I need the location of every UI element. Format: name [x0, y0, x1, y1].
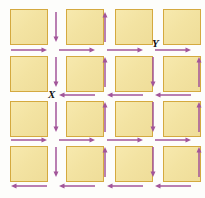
arrow-up-icon [194, 102, 204, 132]
arrow-down-icon [148, 57, 158, 87]
grid-square [163, 9, 201, 45]
arrow-right-icon [107, 135, 143, 145]
label-y: Y [152, 38, 159, 49]
arrow-right-icon [59, 135, 95, 145]
arrow-up-icon [100, 147, 110, 177]
arrow-up-icon [100, 102, 110, 132]
grid-square [66, 56, 104, 92]
grid-square [115, 9, 153, 45]
grid-square [10, 9, 48, 45]
arrow-left-icon [11, 181, 47, 191]
arrow-left-icon [155, 181, 191, 191]
arrow-right-icon [155, 135, 191, 145]
arrow-up-icon [100, 57, 110, 87]
arrow-right-icon [59, 45, 95, 55]
arrow-left-icon [155, 90, 191, 100]
arrow-up-icon [194, 57, 204, 87]
grid-square [66, 146, 104, 182]
arrow-down-icon [51, 12, 61, 42]
arrow-right-icon [11, 135, 47, 145]
arrow-down-icon [148, 147, 158, 177]
lattice-domain-diagram: YX [0, 0, 205, 198]
arrow-left-icon [59, 181, 95, 191]
grid-square [10, 101, 48, 137]
arrow-up-icon [100, 12, 110, 42]
label-x: X [48, 89, 55, 100]
arrow-up-icon [194, 147, 204, 177]
arrow-left-icon [107, 90, 143, 100]
arrow-left-icon [107, 181, 143, 191]
arrow-right-icon [11, 45, 47, 55]
arrow-down-icon [51, 147, 61, 177]
grid-square [66, 101, 104, 137]
grid-square [10, 146, 48, 182]
grid-square [10, 56, 48, 92]
arrow-right-icon [155, 45, 191, 55]
arrow-down-icon [148, 102, 158, 132]
grid-square [66, 9, 104, 45]
arrow-down-icon [51, 102, 61, 132]
arrow-left-icon [59, 90, 95, 100]
arrow-down-icon [51, 57, 61, 87]
arrow-right-icon [107, 45, 143, 55]
